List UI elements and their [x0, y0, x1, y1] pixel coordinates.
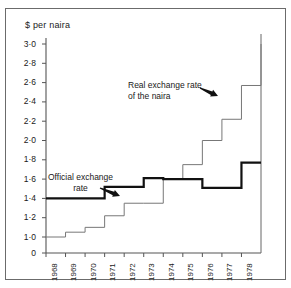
y-tick-label: 2·0	[14, 135, 36, 145]
x-tick-label: 1968	[50, 263, 59, 281]
x-tick-label: 1972	[128, 263, 137, 281]
annotation-real-line2: of the naira	[128, 91, 202, 102]
x-tick-label: 1973	[147, 263, 156, 281]
x-tick-label: 1976	[206, 263, 215, 281]
annotation-official-line2: rate	[48, 183, 113, 194]
y-tick-label: 2·8	[14, 58, 36, 68]
x-tick-label: 1977	[225, 263, 234, 281]
x-tick-label: 1974	[167, 263, 176, 281]
annotation-real-line1: Real exchange rate	[128, 80, 202, 91]
y-tick-label: 1·2	[14, 212, 36, 222]
x-tick-label: 1971	[108, 263, 117, 281]
y-tick-label: 2·4	[14, 96, 36, 106]
y-tick-label: 0	[14, 248, 36, 258]
y-tick-label: 2·2	[14, 116, 36, 126]
annotation-official-exchange-rate: Official exchange rate	[48, 172, 113, 194]
annotation-arrows	[100, 87, 218, 196]
x-tick-label: 1978	[245, 263, 254, 281]
plot-area	[0, 0, 291, 288]
y-tick-label: 2·6	[14, 77, 36, 87]
y-tick-label: 1·0	[14, 232, 36, 242]
x-tick-label: 1969	[69, 263, 78, 281]
x-tick-label: 1970	[89, 263, 98, 281]
data-series	[46, 44, 261, 237]
axis-ticks	[42, 44, 241, 257]
annotation-real-exchange-rate: Real exchange rate of the naira	[128, 80, 202, 102]
y-tick-label: 1·4	[14, 193, 36, 203]
y-tick-label: 3·0	[14, 39, 36, 49]
x-tick-label: 1975	[186, 263, 195, 281]
y-tick-label: 1·8	[14, 154, 36, 164]
annotation-arrow	[200, 87, 218, 96]
chart-figure: $ per naira 3·02·82·62·42·22·01·81·61·41…	[0, 0, 291, 288]
axis-lines	[46, 34, 261, 253]
annotation-official-line1: Official exchange	[48, 172, 113, 183]
y-tick-label: 1·6	[14, 174, 36, 184]
series-line	[46, 44, 261, 237]
